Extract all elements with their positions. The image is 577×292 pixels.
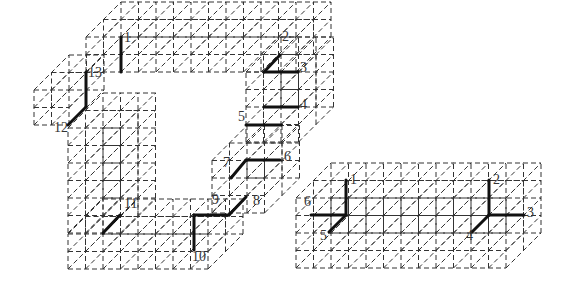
highlighted-edge <box>103 215 120 233</box>
edge-label: 6 <box>304 195 311 209</box>
highlighted-edge <box>264 55 280 72</box>
edge-label: 7 <box>223 156 230 170</box>
highlighted-edge <box>472 215 489 232</box>
edge-label: 6 <box>284 150 291 164</box>
edge-label: 8 <box>253 194 260 208</box>
edge-label: 10 <box>192 250 206 264</box>
edge-label: 11 <box>124 197 137 211</box>
edge-label: 3 <box>300 61 307 75</box>
edge-label: 5 <box>320 229 327 243</box>
edge-label: 12 <box>54 121 68 135</box>
edge-label: 13 <box>88 66 102 80</box>
edge-label: 2 <box>282 30 289 44</box>
edge-label: 9 <box>212 193 219 207</box>
edge-label: 3 <box>527 206 534 220</box>
edge-label: 4 <box>466 229 473 243</box>
edge-label: 1 <box>124 31 131 45</box>
edge-label: 2 <box>493 173 500 187</box>
highlighted-edge <box>231 160 246 178</box>
highlighted-edge <box>329 215 346 232</box>
edge-label: 4 <box>300 98 307 112</box>
edge-label: 5 <box>238 110 245 124</box>
edge-label: 1 <box>350 173 357 187</box>
highlighted-edge <box>68 107 86 125</box>
